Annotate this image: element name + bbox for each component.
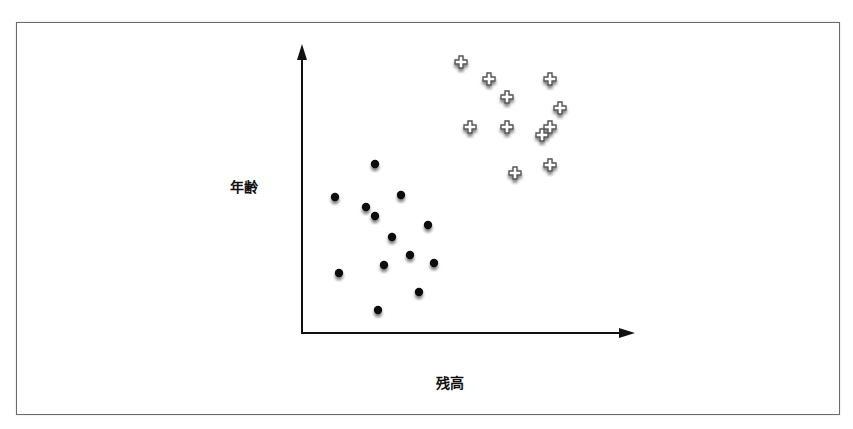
dot-point (380, 261, 388, 269)
scatter-plot (0, 0, 853, 429)
plus-point (544, 121, 556, 133)
dot-point (406, 251, 414, 259)
dot-point (424, 221, 432, 229)
plus-point (536, 129, 548, 141)
plus-point (544, 159, 556, 171)
dot-point (331, 193, 339, 201)
dot-point (388, 233, 396, 241)
data-points (331, 56, 566, 314)
axes (297, 44, 635, 338)
plus-point (501, 91, 513, 103)
x-axis-arrow-icon (619, 328, 635, 338)
dot-point (397, 191, 405, 199)
dot-point (371, 212, 379, 220)
y-axis-arrow-icon (297, 44, 307, 60)
dot-point (371, 160, 379, 168)
plus-point (501, 121, 513, 133)
plus-point (464, 121, 476, 133)
plus-point (554, 102, 566, 114)
dot-point (362, 203, 370, 211)
dot-point (415, 288, 423, 296)
plus-point (455, 56, 467, 68)
dot-point (374, 306, 382, 314)
dot-point (430, 259, 438, 267)
dot-point (335, 269, 343, 277)
plus-point (483, 73, 495, 85)
plus-point (544, 73, 556, 85)
plus-point (509, 167, 521, 179)
